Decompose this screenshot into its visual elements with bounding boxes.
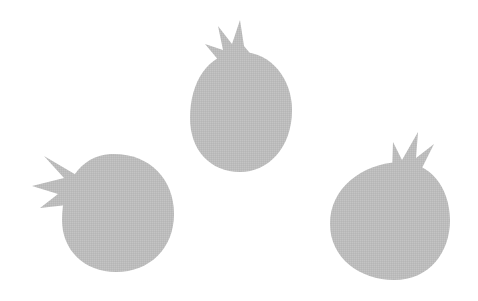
pomegranate-body: [190, 52, 292, 172]
pomegranate-top-center: [190, 20, 292, 172]
pomegranate-body: [62, 154, 174, 272]
pomegranate-bottom-right: [330, 132, 450, 280]
pomegranate-body: [330, 162, 450, 280]
pomegranate-bottom-left: [32, 154, 174, 272]
illustration-canvas: [0, 0, 478, 301]
